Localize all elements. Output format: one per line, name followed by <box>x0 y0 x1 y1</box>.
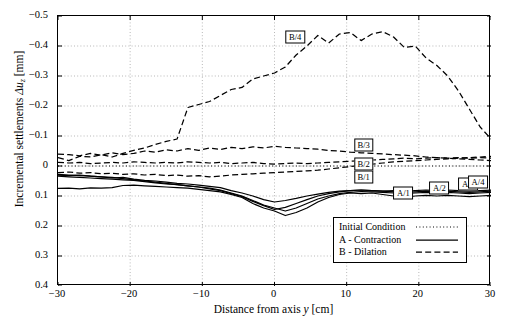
legend-label: B - Dilation <box>339 246 405 259</box>
legend-entry: Initial Condition <box>339 221 461 234</box>
legend-entry: B - Dilation <box>339 246 461 259</box>
legend-entry: A - Contraction <box>339 234 461 247</box>
x-tick-label: 0 <box>271 288 276 299</box>
legend-label: A - Contraction <box>339 234 405 247</box>
legend-line-sample <box>405 221 461 234</box>
legend-line-sample <box>405 246 461 259</box>
legend-label: Initial Condition <box>339 221 405 234</box>
x-tick-label: −20 <box>121 288 137 299</box>
x-tick-label: 20 <box>413 288 424 299</box>
annotation-b-2: B/2 <box>354 157 373 170</box>
x-tick-label: −30 <box>49 288 65 299</box>
x-tick-label: 30 <box>485 288 496 299</box>
annotation-a-1: A/1 <box>393 186 413 199</box>
legend-line-sample <box>405 234 461 247</box>
annotation-b-1: B/1 <box>354 171 373 184</box>
annotation-a-2: A/2 <box>430 182 450 195</box>
chart-figure: Incremental settlements Δuz [mm] −0.5−0.… <box>0 0 512 325</box>
annotation-b-4: B/4 <box>285 30 304 43</box>
annotation-b-3: B/3 <box>354 138 373 151</box>
annotation-a-4: A/4 <box>468 175 488 188</box>
chart-legend: Initial ConditionA - ContractionB - Dila… <box>333 217 467 263</box>
x-tick-label: −10 <box>193 288 209 299</box>
x-axis-tick-labels: −30−20−100102030 <box>0 0 512 325</box>
x-tick-label: 10 <box>340 288 351 299</box>
x-axis-title: Distance from axis y [cm] <box>57 303 490 315</box>
